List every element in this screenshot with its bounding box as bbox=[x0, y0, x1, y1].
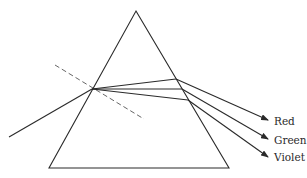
prism-dispersion-diagram: Red Green Violet bbox=[0, 0, 307, 178]
exit-ray-violet bbox=[188, 100, 268, 157]
label-violet: Violet bbox=[274, 152, 305, 163]
diagram-canvas bbox=[0, 0, 307, 178]
dispersed-rays bbox=[92, 79, 268, 157]
normal-line-dashed bbox=[55, 65, 144, 119]
internal-ray-red bbox=[92, 79, 176, 89]
internal-ray-violet bbox=[92, 89, 188, 100]
label-red: Red bbox=[274, 116, 295, 127]
label-green: Green bbox=[274, 135, 307, 146]
exit-ray-red bbox=[176, 79, 268, 120]
